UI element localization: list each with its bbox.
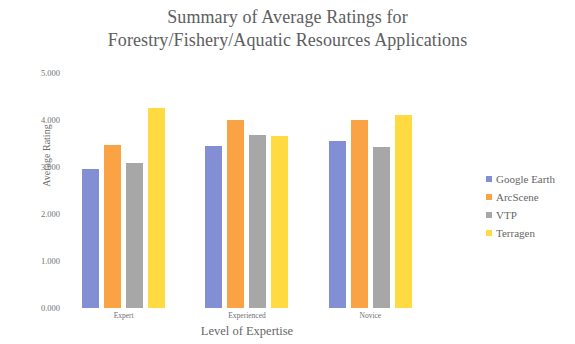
y-axis-tick-label: 5.000 [18,68,60,78]
y-axis-tick-label: 4.000 [18,115,60,125]
bar[interactable] [205,146,222,308]
chart-title-line-2: Forestry/Fishery/Aquatic Resources Appli… [0,29,575,52]
legend-label: Terragen [496,227,535,239]
chart-legend: Google EarthArcSceneVTPTerragen [486,170,572,242]
y-axis-tick-label: 1.000 [18,256,60,266]
legend-item[interactable]: Terragen [486,224,572,242]
legend-label: VTP [496,209,517,221]
legend-swatch-icon [486,194,492,200]
chart-title-line-1: Summary of Average Ratings for [0,6,575,29]
bar[interactable] [395,115,412,308]
legend-label: Google Earth [496,173,555,185]
bar[interactable] [351,120,368,308]
y-axis-tick-label: 2.000 [18,209,60,219]
y-axis-tick-label: 0.000 [18,303,60,313]
legend-item[interactable]: VTP [486,206,572,224]
chart-title: Summary of Average Ratings for Forestry/… [0,6,575,52]
y-axis-tick-labels: 0.0001.0002.0003.0004.0005.000 [18,73,60,308]
legend-swatch-icon [486,212,492,218]
x-axis-tick-label: Experienced [185,311,308,320]
legend-swatch-icon [486,176,492,182]
y-axis-tick-label: 3.000 [18,162,60,172]
x-axis-tick-labels: ExpertExperiencedNovice [62,311,432,320]
bar[interactable] [329,141,346,308]
x-axis-title: Level of Expertise [62,324,432,339]
bar-group [185,73,308,308]
bar-group [62,73,185,308]
bar[interactable] [82,169,99,308]
bar[interactable] [249,135,266,308]
legend-item[interactable]: Google Earth [486,170,572,188]
legend-swatch-icon [486,230,492,236]
bar-group [309,73,432,308]
bar[interactable] [373,147,390,308]
legend-item[interactable]: ArcScene [486,188,572,206]
bar[interactable] [126,163,143,308]
bar-groups [62,73,432,308]
chart-figure: Summary of Average Ratings for Forestry/… [0,0,575,344]
x-axis-tick-label: Novice [309,311,432,320]
bar[interactable] [227,120,244,308]
bar[interactable] [104,145,121,308]
legend-label: ArcScene [496,191,539,203]
x-axis-tick-label: Expert [62,311,185,320]
plot-area [62,73,432,308]
bar[interactable] [271,136,288,308]
bar[interactable] [148,108,165,308]
